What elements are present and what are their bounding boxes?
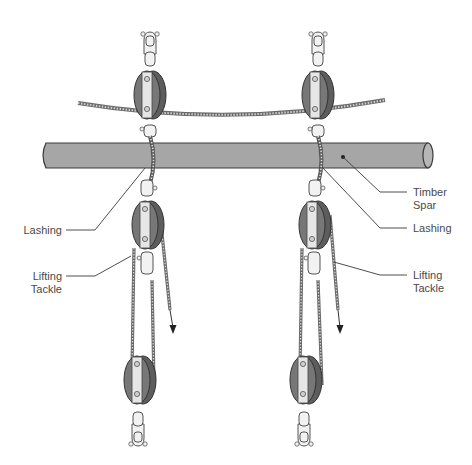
right-pull-arrow-icon — [337, 325, 344, 334]
left-middle-pulley — [132, 201, 164, 249]
timber-spar — [43, 143, 433, 168]
right-middle-pulley — [299, 201, 331, 249]
left-bottom-shackle — [129, 412, 147, 446]
label-lashing-left: Lashing — [0, 224, 62, 237]
left-top-swivel — [140, 125, 156, 137]
right-bottom-shackle — [295, 412, 313, 446]
left-pull-arrow-icon — [170, 325, 177, 334]
label-lashing-right: Lashing — [413, 222, 452, 235]
left-top-pulley — [134, 71, 166, 119]
leader-lines — [66, 157, 407, 276]
right-bottom-pulley — [290, 356, 322, 404]
label-lifting-tackle-right: Lifting Tackle — [413, 269, 444, 295]
label-timber-spar: Timber Spar — [413, 186, 447, 212]
right-top-shackle — [309, 32, 327, 66]
right-top-swivel — [308, 125, 324, 137]
left-bottom-pulley — [124, 356, 156, 404]
right-top-pulley — [302, 71, 334, 119]
left-top-shackle — [141, 32, 159, 66]
rigging-diagram — [0, 0, 472, 465]
label-lifting-tackle-left: Lifting Tackle — [0, 270, 62, 296]
